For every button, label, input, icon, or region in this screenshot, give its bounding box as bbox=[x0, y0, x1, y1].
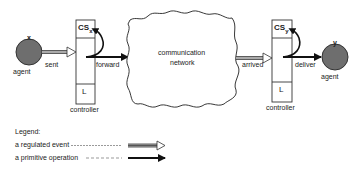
agent-y bbox=[322, 44, 348, 70]
agent-y-label: agent bbox=[321, 73, 339, 81]
agent-x-name: x bbox=[27, 34, 31, 42]
cs-y-label: CSy bbox=[274, 23, 288, 36]
agent-x-label: agent bbox=[13, 68, 31, 76]
diagram-canvas bbox=[0, 0, 362, 176]
legend-regulated-event-arrow bbox=[128, 141, 165, 150]
sent-regulated-event-arrow bbox=[42, 47, 76, 57]
sent-label: sent bbox=[45, 61, 58, 69]
controller-right-caption: controller bbox=[266, 104, 295, 112]
agent-x bbox=[16, 39, 42, 65]
forward-label: forward bbox=[96, 61, 119, 69]
legend-title: Legend: bbox=[15, 128, 40, 136]
controller-right-l-label: L bbox=[279, 86, 283, 94]
controller-left-l-label: L bbox=[82, 88, 86, 96]
deliver-label: deliver bbox=[295, 61, 316, 69]
agent-y-name: y bbox=[333, 39, 337, 47]
network-label-line2: network bbox=[170, 59, 195, 67]
legend-item-regulated-event: a regulated event bbox=[15, 141, 69, 149]
cs-x-label: CSx bbox=[78, 23, 92, 36]
legend-item-primitive-operation: a primitive operation bbox=[15, 154, 78, 162]
controller-left-caption: controller bbox=[70, 106, 99, 114]
arrived-label: arrived bbox=[242, 61, 263, 69]
network-label-line1: communication bbox=[158, 49, 205, 57]
